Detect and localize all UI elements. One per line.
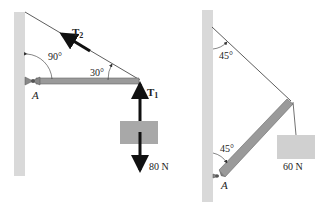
- right-cable: [212, 27, 291, 101]
- left-beam: [36, 78, 139, 84]
- left-figure: T2 T1 90° 30° A 80 N: [14, 12, 169, 176]
- hanging-rope: [293, 102, 296, 135]
- angle-label-45-top: 45°: [219, 50, 233, 61]
- left-pivot-pin: [31, 79, 35, 83]
- t1-label: T1: [147, 86, 158, 100]
- left-weight-label: 80 N: [149, 161, 169, 172]
- right-pivot-label: A: [220, 179, 228, 191]
- right-pivot-pin: [215, 174, 219, 178]
- angle-label-45-bottom: 45°: [220, 143, 234, 154]
- right-wall: [202, 10, 213, 202]
- angle-label-30: 30°: [90, 67, 104, 78]
- right-weight-label: 60 N: [283, 161, 303, 172]
- angle-arc-45-top: [213, 42, 227, 49]
- right-weight-box: [277, 135, 315, 159]
- angle-arc-30: [108, 64, 112, 80]
- t2-label: T2: [72, 26, 83, 40]
- left-pivot-label: A: [31, 89, 39, 101]
- left-wall: [14, 12, 25, 176]
- statics-diagram: T2 T1 90° 30° A 80 N 45° 45° A 60 N: [0, 0, 335, 215]
- angle-label-90: 90°: [48, 51, 62, 62]
- right-figure: 45° 45° A 60 N: [202, 10, 315, 202]
- angle-arc-45-bottom: [213, 153, 227, 163]
